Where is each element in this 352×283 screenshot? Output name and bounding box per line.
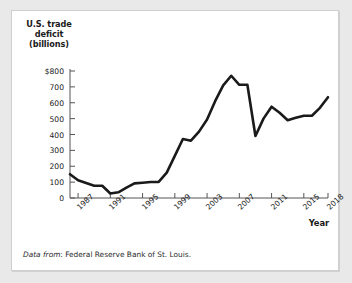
axis-tick-marks [70, 71, 328, 198]
data-series-line [70, 76, 328, 194]
y-tick-label: 400 [50, 130, 65, 139]
y-axis-tick-labels: 0100200300400500600700$800 [12, 11, 64, 270]
source-note-text: : Federal Reserve Bank of St. Louis. [60, 250, 191, 259]
y-tick-label: 0 [59, 194, 64, 203]
y-tick-label: 100 [50, 178, 65, 187]
y-tick-label: $800 [45, 67, 64, 76]
y-tick-label: 500 [50, 114, 65, 123]
source-note: Data from: Federal Reserve Bank of St. L… [23, 250, 191, 259]
figure-panel: U.S. trade deficit (billions) 0100200300… [11, 10, 339, 271]
source-note-lead: Data from [23, 250, 60, 259]
y-tick-label: 600 [50, 98, 65, 107]
x-axis-title: Year [309, 218, 329, 228]
plot-stage: U.S. trade deficit (billions) 0100200300… [12, 11, 338, 270]
y-tick-label: 700 [50, 82, 65, 91]
y-tick-label: 300 [50, 146, 65, 155]
y-tick-label: 200 [50, 162, 65, 171]
